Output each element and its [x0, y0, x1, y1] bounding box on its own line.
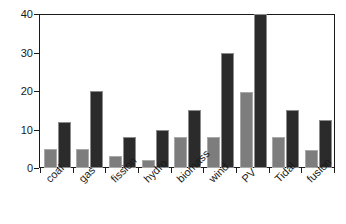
- bar-group: [301, 14, 334, 168]
- bar-tidal-series-1: [272, 137, 285, 168]
- x-tick-mark: [40, 168, 41, 173]
- bar-pv-series-2: [254, 14, 267, 168]
- bar-fission-series-1: [109, 156, 122, 168]
- bar-group: [73, 14, 106, 168]
- x-tick-mark: [171, 168, 172, 173]
- x-tick-mark: [269, 168, 270, 173]
- bar-group: [138, 14, 171, 168]
- x-tick-mark: [301, 168, 302, 173]
- bar-hydro-series-2: [156, 130, 169, 169]
- bar-coal-series-2: [58, 122, 71, 168]
- bar-group: [269, 14, 302, 168]
- bar-gas-series-2: [90, 91, 103, 168]
- bar-group: [105, 14, 138, 168]
- y-axis: 40 30 20 10 0: [0, 0, 39, 182]
- bar-biomass-series-2: [188, 110, 201, 168]
- plot-area: [40, 14, 334, 168]
- bar-group: [40, 14, 73, 168]
- x-tick-mark: [203, 168, 204, 173]
- bar-wind-series-1: [207, 137, 220, 168]
- bar-hydro-series-1: [142, 160, 155, 168]
- bar-fusion-series-1: [305, 150, 318, 168]
- y-tick-mark-0: [34, 168, 39, 169]
- y-tick-label-30: 30: [21, 47, 33, 58]
- x-label-pv: PV: [240, 167, 258, 185]
- y-tick-label-10: 10: [21, 124, 33, 135]
- bar-tidal-series-2: [286, 110, 299, 168]
- bar-fusion-series-2: [319, 120, 332, 168]
- x-tick-mark: [236, 168, 237, 173]
- y-tick-label-0: 0: [27, 163, 33, 174]
- x-tick-mark: [138, 168, 139, 173]
- bar-group: [203, 14, 236, 168]
- bar-group: [171, 14, 204, 168]
- bar-group: [236, 14, 269, 168]
- bar-gas-series-1: [76, 149, 89, 168]
- y-tick-label-40: 40: [21, 9, 33, 20]
- bar-wind-series-2: [221, 53, 234, 169]
- y-tick-label-20: 20: [21, 86, 33, 97]
- bar-coal-series-1: [44, 149, 57, 168]
- x-tick-mark: [73, 168, 74, 173]
- x-tick-mark: [105, 168, 106, 173]
- bar-pv-series-1: [240, 92, 253, 168]
- bar-fission-series-2: [123, 137, 136, 168]
- x-tick-mark: [334, 168, 335, 173]
- bar-chart: 40 30 20 10 0 coalgasfissionhydrobiomass…: [0, 0, 346, 224]
- bar-biomass-series-1: [174, 137, 187, 168]
